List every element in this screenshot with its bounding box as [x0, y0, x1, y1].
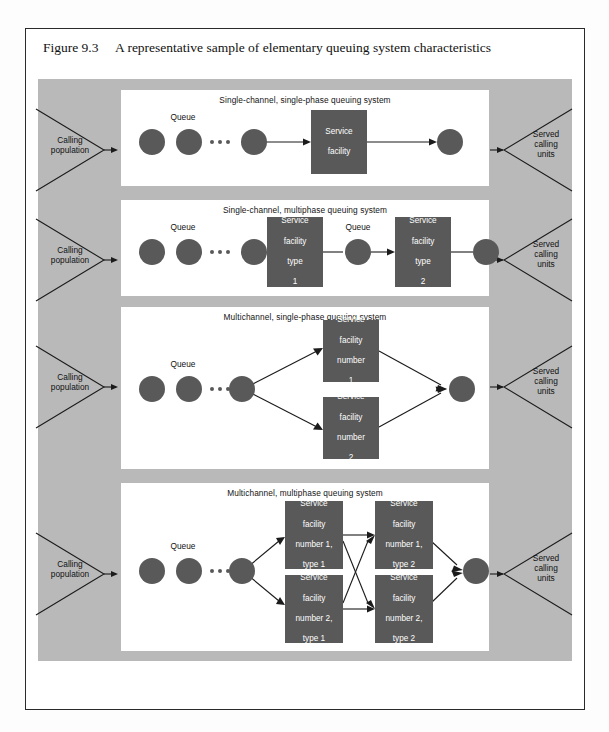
- figure-backdrop: Callingpopulation Servedcallingunits Sin…: [38, 79, 572, 661]
- service-facility-text: Servicefacility: [321, 127, 356, 158]
- service-facility-number-1-type-2-text: Servicefacilitynumber 1,type 2: [382, 499, 427, 570]
- panel-multichannel-single-phase: Multichannel, single-phase queuing syste…: [121, 307, 489, 469]
- served-node: [449, 376, 475, 402]
- served-node: [463, 558, 489, 584]
- service-facility-number-1-type-1-text: Servicefacilitynumber 1,type 1: [292, 499, 337, 570]
- panel-single-channel-multiphase: Single-channel, multiphase queuing syste…: [121, 200, 489, 296]
- queue-label-4: Queue: [161, 541, 205, 551]
- service-facility-number-1-type-2-box: Servicefacilitynumber 1,type 2: [375, 501, 433, 569]
- queue-ellipsis: [210, 250, 230, 254]
- page-root: Figure 9.3A representative sample of ele…: [0, 0, 609, 732]
- queue-node: [139, 558, 165, 584]
- panel-title-2: Single-channel, multiphase queuing syste…: [121, 205, 489, 215]
- figure-caption-text: A representative sample of elementary qu…: [115, 38, 535, 58]
- served-node: [473, 239, 499, 265]
- service-facility-number-2-text: Servicefacilitynumber2: [333, 392, 369, 463]
- calling-population-funnel-4: Callingpopulation: [34, 531, 118, 617]
- calling-population-label-1: Callingpopulation: [28, 135, 112, 155]
- calling-population-funnel-1: Callingpopulation: [34, 107, 118, 193]
- queue-label-2a: Queue: [161, 222, 205, 232]
- served-units-funnel-4: Servedcallingunits: [490, 531, 574, 617]
- queue-node: [176, 376, 202, 402]
- queue-label-2b: Queue: [336, 222, 380, 232]
- calling-population-funnel-2: Callingpopulation: [34, 217, 118, 303]
- queue-node: [139, 129, 165, 155]
- panel-title-4: Multichannel, multiphase queuing system: [121, 488, 489, 498]
- service-facility-number-2-type-1-text: Servicefacilitynumber 2,type 1: [292, 573, 337, 644]
- queue-ellipsis: [210, 140, 230, 144]
- figure-number: Figure 9.3: [43, 38, 115, 58]
- service-facility-type-2-text: Servicefacilitytype2: [405, 216, 440, 287]
- service-facility-number-1-text: Servicefacilitynumber1: [333, 315, 369, 386]
- queue-label-1: Queue: [161, 112, 205, 122]
- intermediate-queue-node: [345, 239, 371, 265]
- service-facility-number-2-type-1-box: Servicefacilitynumber 2,type 1: [285, 575, 343, 643]
- calling-population-label-2: Callingpopulation: [28, 245, 112, 265]
- queue-ellipsis: [210, 387, 230, 391]
- queue-node: [229, 558, 255, 584]
- served-units-label-4: Servedcallingunits: [504, 553, 588, 583]
- panel-multichannel-multiphase: Multichannel, multiphase queuing system: [121, 483, 489, 651]
- panel-title-3: Multichannel, single-phase queuing syste…: [121, 312, 489, 322]
- served-units-funnel-2: Servedcallingunits: [490, 217, 574, 303]
- calling-population-label-4: Callingpopulation: [28, 559, 112, 579]
- service-facility-number-2-type-2-text: Servicefacilitynumber 2,type 2: [382, 573, 427, 644]
- service-facility-box: Servicefacility: [311, 110, 367, 174]
- queue-node: [176, 558, 202, 584]
- service-facility-number-2-box: Servicefacilitynumber2: [323, 397, 379, 459]
- queue-node: [241, 129, 267, 155]
- served-units-funnel-3: Servedcallingunits: [490, 344, 574, 430]
- service-facility-type-1-box: Servicefacilitytype1: [267, 217, 323, 287]
- panel-title-1: Single-channel, single-phase queuing sys…: [121, 95, 489, 105]
- queue-node: [229, 376, 255, 402]
- served-units-label-3: Servedcallingunits: [504, 366, 588, 396]
- queue-label-3: Queue: [161, 359, 205, 369]
- figure-caption: Figure 9.3A representative sample of ele…: [43, 38, 563, 58]
- served-node: [437, 129, 463, 155]
- calling-population-label-3: Callingpopulation: [28, 372, 112, 392]
- service-facility-number-1-box: Servicefacilitynumber1: [323, 320, 379, 382]
- calling-population-funnel-3: Callingpopulation: [34, 344, 118, 430]
- service-facility-number-1-type-1-box: Servicefacilitynumber 1,type 1: [285, 501, 343, 569]
- served-units-label-1: Servedcallingunits: [504, 129, 588, 159]
- service-facility-type-2-box: Servicefacilitytype2: [395, 217, 451, 287]
- queue-ellipsis: [210, 569, 230, 573]
- queue-node: [241, 239, 267, 265]
- service-facility-number-2-type-2-box: Servicefacilitynumber 2,type 2: [375, 575, 433, 643]
- queue-node: [176, 129, 202, 155]
- queue-node: [139, 376, 165, 402]
- panel-single-channel-single-phase: Single-channel, single-phase queuing sys…: [121, 90, 489, 186]
- queue-node: [176, 239, 202, 265]
- service-facility-type-1-text: Servicefacilitytype1: [277, 216, 312, 287]
- served-units-funnel-1: Servedcallingunits: [490, 107, 574, 193]
- queue-node: [139, 239, 165, 265]
- served-units-label-2: Servedcallingunits: [504, 239, 588, 269]
